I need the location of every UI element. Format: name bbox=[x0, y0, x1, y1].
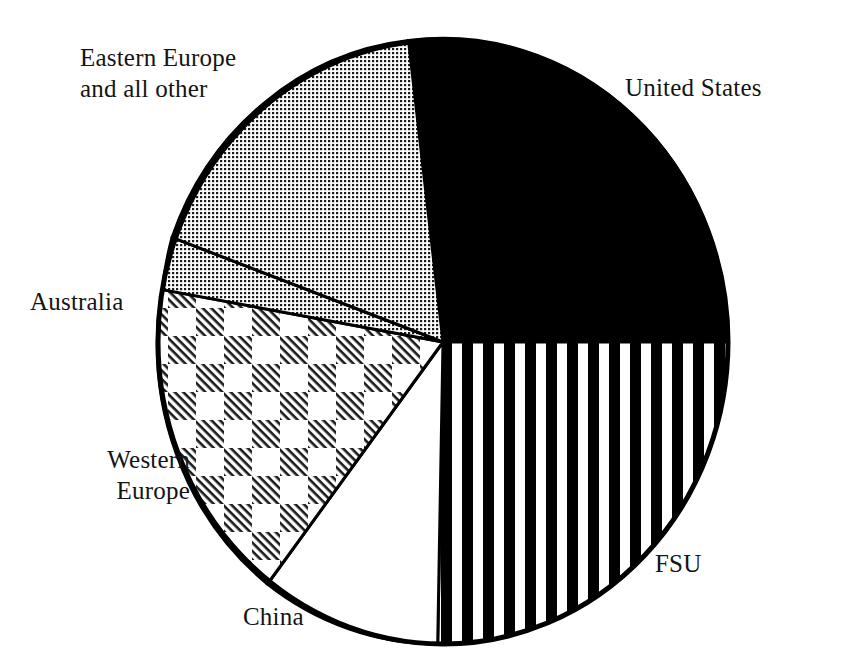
pie-label-western-europe: Western Europe bbox=[42, 444, 190, 506]
pie-slice-fsu[interactable] bbox=[438, 342, 728, 644]
pie-label-fsu: FSU bbox=[655, 548, 701, 579]
pie-label-china: China bbox=[243, 601, 304, 632]
pie-label-united-states: United States bbox=[625, 72, 762, 103]
pie-label-eastern-europe: Eastern Europe and all other bbox=[80, 42, 236, 104]
pie-label-australia: Australia bbox=[30, 286, 123, 317]
pie-chart-figure: Eastern Europe and all other United Stat… bbox=[0, 0, 845, 672]
